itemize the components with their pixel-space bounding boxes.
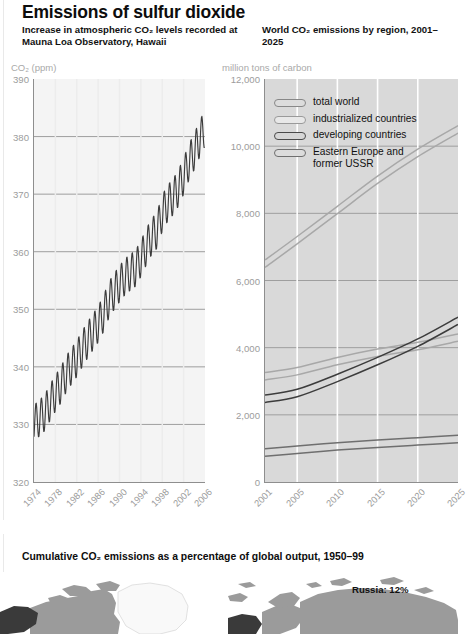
right-chart-x-tick: 2010	[318, 487, 346, 515]
section-separator	[0, 520, 458, 534]
left-chart-y-tick: 350	[0, 304, 29, 315]
legend-swatch-icon	[274, 149, 306, 157]
right-chart-y-tick: 8,000	[215, 208, 260, 219]
left-chart-subtitle: Increase in atmospheric CO₂ levels recor…	[22, 24, 262, 47]
world-map-svg	[0, 572, 458, 634]
left-chart-y-tick: 370	[0, 189, 29, 200]
right-chart-y-tick: 4,000	[215, 342, 260, 353]
right-chart-subtitle: World CO₂ emissions by region, 2001–2025	[262, 24, 458, 47]
left-chart-x-axis-line	[33, 482, 205, 483]
legend-item-label: industrialized countries	[313, 113, 417, 125]
right-chart-y-tick: 0	[215, 477, 260, 488]
left-chart-y-tick: 330	[0, 419, 29, 430]
map-region-iceland	[228, 593, 248, 602]
map-region-arctic-islets-ru-5	[238, 582, 256, 588]
right-chart-x-tick: 2025	[439, 487, 467, 515]
legend-item-label: developing countries	[313, 129, 406, 141]
left-chart-svg	[34, 79, 205, 482]
legend-swatch-icon	[274, 132, 306, 140]
legend-swatch-icon	[274, 99, 306, 107]
map-region-arctic-islets-ru-4	[306, 582, 322, 588]
map-section-title: Cumulative CO₂ emissions as a percentage…	[22, 551, 364, 562]
world-map	[0, 572, 458, 634]
left-chart-y-tick: 360	[0, 246, 29, 257]
legend-item[interactable]: Eastern Europe and former USSR	[274, 146, 454, 172]
left-chart-y-tick: 390	[0, 74, 29, 85]
mauna-loa-chart: 320330340350360370380390 197419781982198…	[0, 70, 215, 520]
legend-item[interactable]: industrialized countries	[274, 113, 454, 127]
right-chart-x-tick: 2020	[399, 487, 427, 515]
map-region-greenland	[118, 583, 188, 634]
right-chart-y-tick: 6,000	[215, 275, 260, 286]
right-chart-y-tick: 2,000	[215, 409, 260, 420]
right-chart-x-tick: 2001	[246, 487, 274, 515]
left-chart-plot-area	[34, 79, 205, 482]
right-chart-x-tick: 2005	[278, 487, 306, 515]
right-chart-y-tick: 12,000	[215, 74, 260, 85]
map-annotation-russia: Russia: 12%	[352, 584, 409, 595]
left-chart-y-tick: 320	[0, 477, 29, 488]
legend-item-label: Eastern Europe and former USSR	[313, 146, 404, 170]
right-chart-x-tick: 2015	[358, 487, 386, 515]
legend-swatch-icon	[274, 116, 306, 124]
map-region-scandinavia	[268, 592, 300, 608]
map-region-northern-europe	[262, 604, 304, 634]
map-region-arctic-islets-ru-3	[414, 587, 434, 594]
left-chart-y-tick: 340	[0, 361, 29, 372]
right-chart-y-tick: 10,000	[215, 141, 260, 152]
map-region-arctic-islands-2	[96, 581, 120, 591]
map-region-arctic-islets-ru	[330, 578, 352, 586]
left-chart-y-tick: 380	[0, 131, 29, 142]
legend-item[interactable]: developing countries	[274, 129, 454, 143]
right-chart-x-axis-line	[264, 482, 458, 483]
legend-item-label: total world	[313, 96, 359, 108]
right-chart-legend: total worldindustrialized countriesdevel…	[274, 96, 454, 174]
map-region-europe	[228, 614, 262, 634]
page-title: Emissions of sulfur dioxide	[22, 2, 245, 23]
series-line	[265, 435, 458, 456]
legend-item[interactable]: total world	[274, 96, 454, 110]
